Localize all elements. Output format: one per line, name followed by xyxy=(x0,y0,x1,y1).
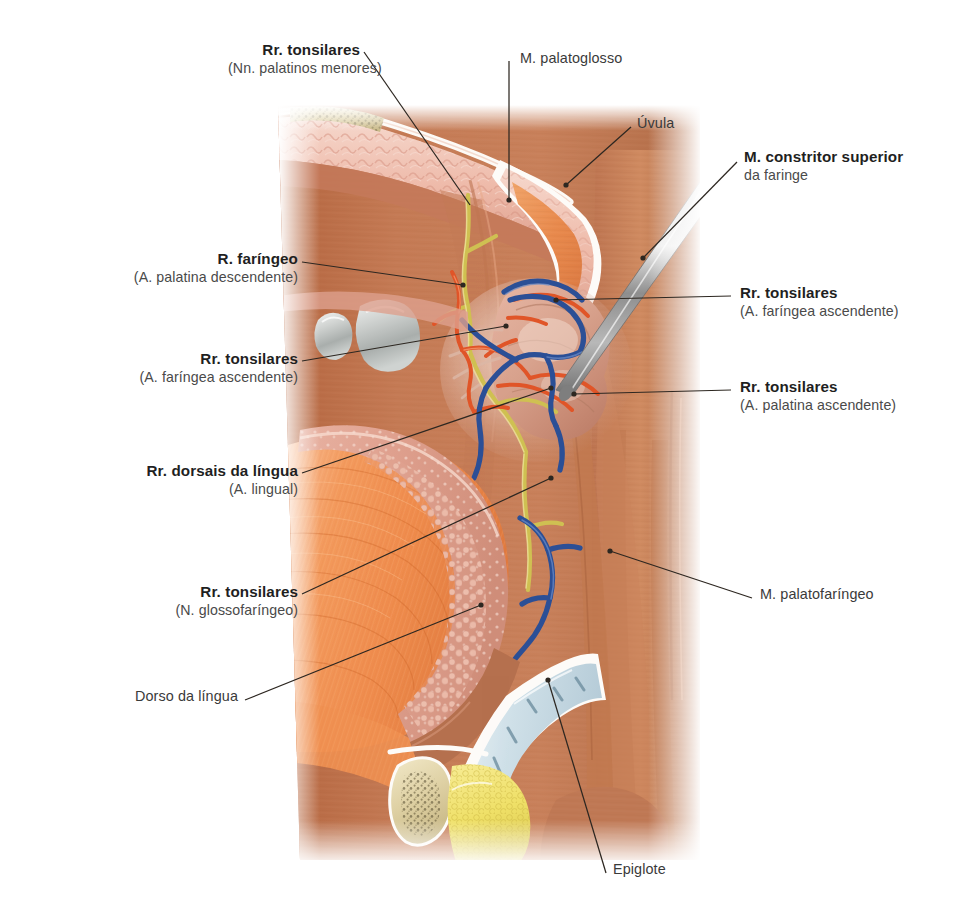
label-musculo-palatofaringeo: M. palatofaríngeo xyxy=(760,586,900,604)
label-title-rr-tonsilares-arteria-faringea-ascendente-direita: Rr. tonsilares xyxy=(740,284,920,303)
label-subtitle-rr-tonsilares-arteria-faringea-ascendente-esquerda: (A. faríngea ascendente) xyxy=(80,369,298,386)
label-title-rr-tonsilares-arteria-palatina-ascendente: Rr. tonsilares xyxy=(740,378,920,397)
label-musculo-constritor-superior-da-faringe: M. constritor superiorda faringe xyxy=(744,148,914,184)
label-rr-tonsilares-nervos-palatinos-menores: Rr. tonsilares(Nn. palatinos menores) xyxy=(228,41,360,77)
label-title-ramo-faringeo-arteria-palatina-descendente: R. faríngeo xyxy=(128,250,298,269)
label-uvula: Úvula xyxy=(637,115,687,133)
label-rr-tonsilares-arteria-faringea-ascendente-esquerda: Rr. tonsilares(A. faríngea ascendente) xyxy=(80,350,298,386)
label-subtitle-ramo-faringeo-arteria-palatina-descendente: (A. palatina descendente) xyxy=(128,269,298,286)
leader-dot-dorso-da-lingua xyxy=(478,602,483,607)
label-rr-tonsilares-nervo-glossofaringeo: Rr. tonsilares(N. glossofaríngeo) xyxy=(110,583,298,619)
label-title-musculo-palatoglosso: M. palatoglosso xyxy=(520,50,640,68)
leader-dot-rr-tonsilares-arteria-faringea-ascendente-direita xyxy=(553,297,558,302)
label-title-uvula: Úvula xyxy=(637,115,687,133)
label-title-epiglote: Epiglote xyxy=(613,861,683,879)
label-dorso-da-lingua: Dorso da língua xyxy=(110,688,238,706)
leader-dot-rr-tonsilares-arteria-faringea-ascendente-esquerda xyxy=(503,323,508,328)
label-subtitle-rr-tonsilares-arteria-faringea-ascendente-direita: (A. faríngea ascendente) xyxy=(740,303,920,320)
anatomy-illustration xyxy=(0,0,958,921)
label-ramo-faringeo-arteria-palatina-descendente: R. faríngeo(A. palatina descendente) xyxy=(128,250,298,286)
label-title-dorso-da-lingua: Dorso da língua xyxy=(110,688,238,706)
leader-dot-rr-tonsilares-nervo-glossofaringeo xyxy=(548,475,553,480)
label-subtitle-rr-tonsilares-nervo-glossofaringeo: (N. glossofaríngeo) xyxy=(110,602,298,619)
label-title-musculo-constritor-superior-da-faringe: M. constritor superior xyxy=(744,148,914,167)
label-rr-tonsilares-arteria-palatina-ascendente: Rr. tonsilares(A. palatina ascendente) xyxy=(740,378,920,414)
label-epiglote: Epiglote xyxy=(613,861,683,879)
figure-page: Rr. tonsilares(Nn. palatinos menores)M. … xyxy=(0,0,958,921)
leader-dot-uvula xyxy=(563,182,568,187)
label-title-musculo-palatofaringeo: M. palatofaríngeo xyxy=(760,586,900,604)
label-subtitle-rr-tonsilares-arteria-palatina-ascendente: (A. palatina ascendente) xyxy=(740,397,920,414)
label-subtitle-rr-tonsilares-nervos-palatinos-menores: (Nn. palatinos menores) xyxy=(228,60,360,77)
label-rr-dorsais-da-lingua-arteria-lingual: Rr. dorsais da língua(A. lingual) xyxy=(56,462,298,498)
label-rr-tonsilares-arteria-faringea-ascendente-direita: Rr. tonsilares(A. faríngea ascendente) xyxy=(740,284,920,320)
illustration-body xyxy=(278,105,713,866)
leader-dot-ramo-faringeo-arteria-palatina-descendente xyxy=(460,282,465,287)
leader-dot-rr-dorsais-da-lingua-arteria-lingual xyxy=(548,385,553,390)
label-subtitle-rr-dorsais-da-lingua-arteria-lingual: (A. lingual) xyxy=(56,481,298,498)
label-title-rr-tonsilares-nervos-palatinos-menores: Rr. tonsilares xyxy=(228,41,360,60)
leader-dot-musculo-palatoglosso xyxy=(506,197,511,202)
label-title-rr-dorsais-da-lingua-arteria-lingual: Rr. dorsais da língua xyxy=(56,462,298,481)
label-title-rr-tonsilares-arteria-faringea-ascendente-esquerda: Rr. tonsilares xyxy=(80,350,298,369)
leader-dot-musculo-palatofaringeo xyxy=(607,548,612,553)
label-subtitle-musculo-constritor-superior-da-faringe: da faringe xyxy=(744,167,914,184)
leader-dot-epiglote xyxy=(545,677,550,682)
leader-dot-rr-tonsilares-arteria-palatina-ascendente xyxy=(571,391,576,396)
leader-dot-musculo-constritor-superior-da-faringe xyxy=(640,255,645,260)
label-musculo-palatoglosso: M. palatoglosso xyxy=(520,50,640,68)
label-title-rr-tonsilares-nervo-glossofaringeo: Rr. tonsilares xyxy=(110,583,298,602)
